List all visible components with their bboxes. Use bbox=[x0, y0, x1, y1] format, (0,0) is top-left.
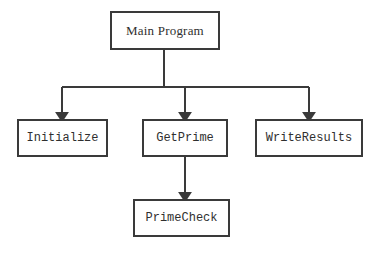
node-label: Initialize bbox=[26, 132, 98, 144]
node-main-program[interactable]: Main Program bbox=[110, 11, 220, 50]
node-writeresults[interactable]: WriteResults bbox=[255, 119, 363, 157]
node-primecheck[interactable]: PrimeCheck bbox=[133, 199, 230, 237]
node-label: GetPrime bbox=[156, 132, 214, 144]
node-getprime[interactable]: GetPrime bbox=[142, 119, 228, 157]
node-initialize[interactable]: Initialize bbox=[17, 119, 108, 157]
node-label: Main Program bbox=[126, 24, 204, 37]
node-label: PrimeCheck bbox=[145, 212, 217, 224]
node-label: WriteResults bbox=[266, 132, 352, 144]
diagram-canvas: Main Program Initialize GetPrime WriteRe… bbox=[0, 0, 373, 253]
